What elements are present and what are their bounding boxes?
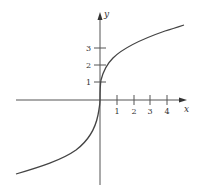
x-tick-label: 1	[114, 107, 119, 116]
y-axis-label: y	[103, 9, 110, 19]
x-tick-label: 2	[131, 107, 136, 116]
x-axis-arrow-icon	[179, 98, 187, 103]
x-axis-label: x	[184, 104, 189, 114]
x-tick-label: 3	[147, 107, 152, 116]
chart: 1 2 3 4 1 2 3 x y	[0, 0, 198, 192]
y-axis-arrow-icon	[98, 12, 103, 20]
y-tick-label: 1	[86, 78, 91, 87]
x-tick-label: 4	[164, 107, 169, 116]
y-tick-label: 3	[86, 44, 91, 53]
y-tick-label: 2	[86, 61, 91, 70]
